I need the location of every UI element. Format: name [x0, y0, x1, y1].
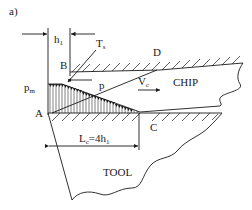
pm-label: pm [24, 82, 35, 95]
chip-label: CHIP [173, 77, 198, 88]
tool-label: TOOL [103, 167, 132, 178]
point-c-label: C [150, 122, 157, 133]
p-label: p [99, 80, 105, 91]
chip-formation-diagram: a) h1 Ts B D pm p Vc CHIP A C Lc=4h1 TOO… [0, 0, 252, 210]
chip-underside [140, 106, 220, 112]
tool-body-outline [48, 113, 222, 200]
lc-label: Lc=4h1 [79, 133, 110, 146]
ts-leader [68, 50, 96, 82]
vc-label: Vc [138, 76, 149, 89]
point-a-label: A [35, 108, 43, 119]
chip-top-surface [70, 56, 243, 72]
diagram-drawing [0, 0, 252, 210]
ts-label: Ts [96, 38, 105, 51]
chip-break-edge [220, 63, 243, 106]
point-d-label: D [153, 47, 161, 58]
h1-label: h1 [54, 34, 63, 47]
pressure-distribution [48, 84, 140, 113]
point-b-label: B [60, 60, 67, 71]
tool-rake-face [48, 113, 222, 121]
panel-label: a) [9, 6, 18, 17]
